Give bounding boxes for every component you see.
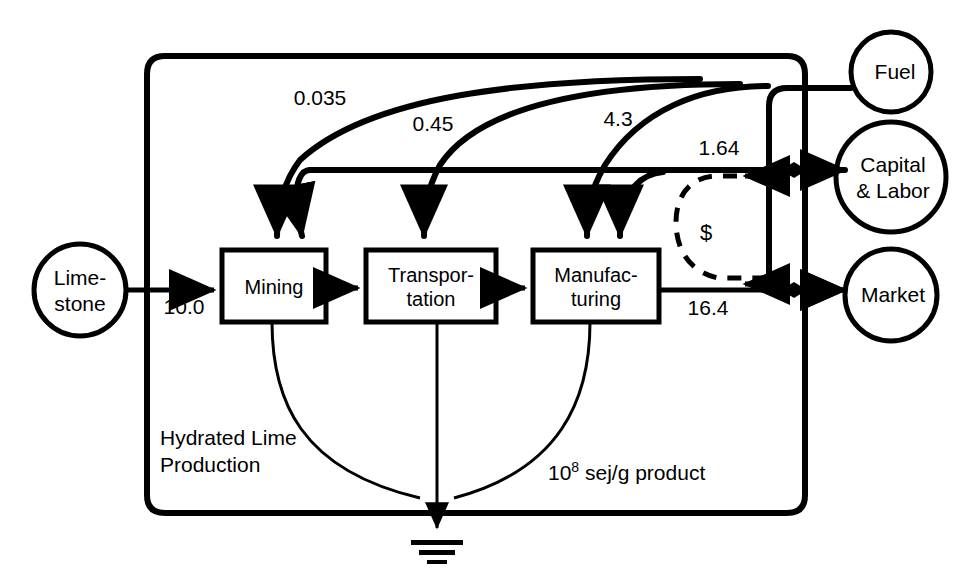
- system-boundary-label-1: Hydrated Lime: [160, 426, 297, 449]
- system-boundary-label-2: Production: [160, 453, 260, 476]
- money-loop-dashed: [676, 176, 762, 278]
- flow-fuel-to-transportation-curve: [424, 84, 740, 236]
- source-fuel-label: Fuel: [875, 60, 916, 83]
- source-capital-labor-circle[interactable]: [836, 122, 946, 232]
- outflow-mining-to-heatsink: [272, 322, 420, 498]
- source-market-label: Market: [861, 283, 925, 306]
- heat-sink-icon: [411, 540, 463, 564]
- flow-label-fuel-to-mining: 0.035: [294, 86, 347, 109]
- process-manufacturing-label-2: turing: [571, 288, 621, 310]
- process-manufacturing-box[interactable]: [533, 250, 659, 322]
- flow-capital-to-manufacturing-curve: [620, 172, 663, 236]
- flow-label-fuel-to-manufacturing: 4.3: [603, 107, 632, 130]
- money-symbol-label: $: [700, 220, 712, 245]
- flow-label-limestone-to-mining: 10.0: [164, 295, 205, 318]
- flow-label-manufacturing-to-market: 16.4: [688, 296, 729, 319]
- process-transportation-label-2: tation: [407, 288, 456, 310]
- units-annotation: 108 sej/g product: [548, 459, 705, 484]
- units-exponent: 8: [571, 459, 579, 475]
- process-transportation-box[interactable]: [366, 250, 496, 322]
- source-limestone-circle[interactable]: [34, 244, 126, 336]
- energy-systems-diagram: Lime- stone Fuel Capital & Labor Market …: [0, 0, 962, 581]
- diagram-canvas: Lime- stone Fuel Capital & Labor Market …: [0, 0, 962, 581]
- svg-text:108 sej/g product: 108 sej/g product: [548, 459, 705, 484]
- flow-label-fuel-to-transportation: 0.45: [413, 112, 454, 135]
- process-transportation-label-1: Transpor-: [388, 264, 474, 286]
- flow-label-capital-to-manufacturing: 1.64: [699, 136, 740, 159]
- units-prefix: 10: [548, 461, 571, 484]
- source-limestone-label-2: stone: [54, 292, 105, 315]
- process-mining-label-1: Mining: [245, 276, 304, 298]
- source-limestone-label-1: Lime-: [54, 266, 107, 289]
- source-capital-labor-label-2: & Labor: [856, 179, 930, 202]
- flow-capital-to-mining-curve: [296, 170, 310, 236]
- source-capital-labor-label-1: Capital: [860, 153, 925, 176]
- units-suffix: sej/g product: [579, 461, 705, 484]
- process-manufacturing-label-1: Manufac-: [554, 264, 637, 286]
